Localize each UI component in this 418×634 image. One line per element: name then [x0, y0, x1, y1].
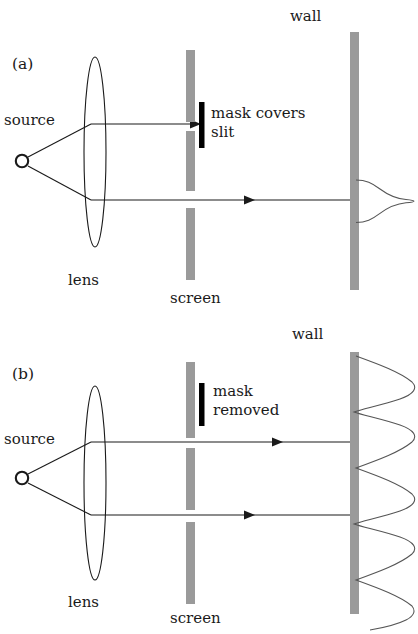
- screen-b-segment-lower: [186, 522, 195, 604]
- source-b-point: [16, 472, 28, 484]
- screen-b-segment-upper: [186, 362, 195, 438]
- lens-b-shape: [84, 386, 106, 580]
- source-b-label: source: [4, 431, 55, 448]
- source-a-label: source: [4, 112, 55, 129]
- wall-b-label: wall: [292, 326, 323, 343]
- mask-b-label-line2: removed: [213, 402, 279, 419]
- mask-b-bar: [199, 383, 205, 426]
- screen-a-segment-middle: [186, 131, 195, 191]
- screen-a-segment-lower: [186, 208, 195, 280]
- mask-a-label-line2: slit: [211, 124, 234, 141]
- screen-a-segment-upper: [186, 50, 195, 122]
- pattern-b-fringes: [354, 356, 415, 630]
- arrowhead-b-upper: [272, 438, 283, 447]
- source-a-point: [16, 155, 28, 167]
- arrowhead-a-lower: [244, 196, 255, 205]
- mask-a-label-line1: mask covers: [211, 105, 305, 122]
- screen-a-label: screen: [170, 290, 221, 307]
- arrowhead-b-lower: [244, 511, 255, 520]
- lens-a-label: lens: [68, 272, 99, 289]
- wall-a-label: wall: [290, 8, 321, 25]
- pattern-a-gaussian: [356, 180, 414, 222]
- source-ray-a-lower: [28, 166, 91, 200]
- wall-b: [350, 352, 359, 614]
- screen-b-segment-middle: [186, 448, 195, 510]
- diagram-canvas: [0, 0, 418, 634]
- wall-a: [350, 32, 359, 290]
- panel-a-label: (a): [12, 56, 33, 73]
- mask-a-bar: [199, 102, 205, 148]
- panel-b-label: (b): [12, 366, 34, 383]
- lens-b-label: lens: [68, 594, 99, 611]
- mask-b-label-line1: mask: [213, 383, 253, 400]
- source-ray-b-lower: [28, 483, 91, 515]
- optics-figure: (a) source lens screen wall mask covers …: [0, 0, 418, 634]
- lens-a-shape: [84, 57, 106, 247]
- panel-a-graphics: [16, 32, 414, 290]
- screen-b-label: screen: [170, 610, 221, 627]
